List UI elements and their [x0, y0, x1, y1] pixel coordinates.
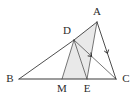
vertex-label-B: B	[6, 72, 13, 84]
vertex-label-C: C	[122, 72, 129, 84]
figure-background	[0, 0, 137, 95]
vertex-label-M: M	[57, 82, 67, 94]
geometry-canvas: A B C D E M	[0, 0, 137, 95]
geometry-figure: A B C D E M	[0, 0, 137, 95]
vertex-label-D: D	[63, 24, 71, 36]
vertex-label-E: E	[84, 82, 91, 94]
vertex-label-A: A	[93, 5, 101, 17]
